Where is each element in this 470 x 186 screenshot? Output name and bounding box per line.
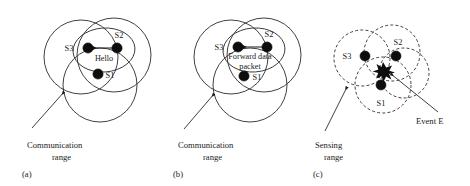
caption-communication-range-line2: range [52,152,71,162]
node-label-s3: S3 [343,52,352,61]
message-label-hello: Hello [95,54,113,63]
diagram-svg: S3 S2 S1 Hello Communication range (a) S… [0,0,470,186]
panel-b: S3 S2 S1 Forward data packet Communicati… [173,18,301,179]
node-s1 [376,80,386,90]
message-label-forward-data-line2: packet [239,62,261,71]
node-s1 [239,71,249,81]
overlap-ellipse [72,26,137,74]
figure-container: S3 S2 S1 Hello Communication range (a) S… [0,0,470,186]
caption-communication-range-line1: Communication [178,140,234,150]
node-s3 [83,43,93,53]
node-label-s3: S3 [215,43,224,52]
node-label-s1: S1 [253,73,262,82]
node-label-s2: S2 [394,38,403,47]
communication-range-pointer [184,94,214,129]
panel-a: S3 S2 S1 Hello Communication range (a) [22,18,151,179]
node-label-s1: S1 [377,99,386,108]
caption-communication-range-line1: Communication [27,140,83,150]
node-s2 [391,51,401,61]
message-label-forward-data-line1: Forward data [228,52,272,61]
event-label: Event E [416,116,443,126]
node-s3 [233,42,243,52]
node-label-s1: S1 [106,71,115,80]
panel-c: S3 S2 S1 Event E Sensing range (c) [313,25,443,179]
communication-range-pointer [32,92,64,128]
event-star-icon [373,62,395,82]
node-s3 [360,51,370,61]
panel-label-c: (c) [313,169,323,179]
node-label-s2: S2 [265,30,274,39]
sensing-range-pointer [325,87,347,131]
node-label-s2: S2 [115,31,124,40]
caption-sensing-range-line1: Sensing [315,140,343,150]
panel-label-a: (a) [22,169,32,179]
node-s1 [93,69,103,79]
node-s2 [112,43,122,53]
node-label-s3: S3 [65,44,74,53]
panel-label-b: (b) [173,169,183,179]
caption-communication-range-line2: range [203,152,222,162]
node-s2 [262,42,272,52]
caption-sensing-range-line2: range [324,152,343,162]
event-pointer [391,74,438,112]
